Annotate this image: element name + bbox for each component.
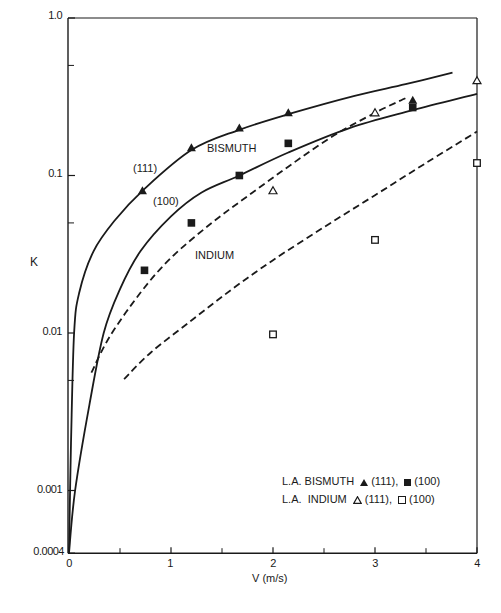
legend: L.A. BISMUTH (111), (100) L.A. INDIUM (1… bbox=[282, 472, 440, 508]
x-axis-title: V (m/s) bbox=[252, 572, 287, 584]
label-111: (111) bbox=[133, 162, 157, 174]
filled-triangle-icon bbox=[360, 479, 368, 486]
legend-prefix: L.A. BISMUTH bbox=[282, 475, 354, 487]
legend-label: (100) bbox=[409, 493, 435, 505]
bismuth-label: BISMUTH bbox=[207, 142, 257, 154]
filled-square-marker bbox=[188, 219, 196, 227]
x-tick-label: 4 bbox=[467, 557, 487, 569]
filled-square-marker bbox=[285, 140, 293, 148]
y-tick-label: 0.01 bbox=[6, 325, 62, 337]
legend-row-indium: L.A. INDIUM (111), (100) bbox=[282, 490, 440, 508]
filled-triangle-marker bbox=[408, 96, 417, 104]
legend-prefix: L.A. INDIUM bbox=[282, 493, 347, 505]
x-tick-label: 3 bbox=[365, 557, 385, 569]
label-100: (100) bbox=[153, 195, 179, 207]
filled-triangle-marker bbox=[284, 108, 293, 116]
open-triangle-icon bbox=[353, 496, 362, 504]
open-square-marker bbox=[372, 237, 379, 244]
x-tick-label: 0 bbox=[59, 557, 79, 569]
legend-row-bismuth: L.A. BISMUTH (111), (100) bbox=[282, 472, 440, 490]
y-axis-title: K bbox=[30, 255, 38, 269]
open-square-marker bbox=[474, 160, 481, 167]
open-triangle-marker bbox=[269, 187, 277, 194]
filled-square-marker bbox=[409, 104, 417, 112]
legend-label: (111), bbox=[365, 493, 392, 505]
filled-triangle-marker bbox=[235, 124, 244, 132]
open-square-icon bbox=[398, 496, 406, 504]
y-tick-label: 0.1 bbox=[6, 167, 62, 179]
filled-square-marker bbox=[236, 172, 244, 180]
y-tick-label: 1.0 bbox=[6, 9, 62, 21]
open-square-marker bbox=[270, 331, 277, 338]
filled-square-icon bbox=[404, 479, 411, 486]
y-tick-label: 0.001 bbox=[6, 483, 62, 495]
filled-square-marker bbox=[141, 267, 149, 275]
legend-label: (100) bbox=[414, 475, 440, 487]
x-tick-label: 2 bbox=[263, 557, 283, 569]
y-tick-label: 0.0004 bbox=[8, 545, 64, 557]
plot-area bbox=[0, 0, 501, 613]
x-tick-label: 1 bbox=[160, 557, 180, 569]
legend-label: (111), bbox=[371, 475, 398, 487]
indium-100-fit-curve bbox=[124, 132, 477, 380]
open-triangle-marker bbox=[371, 109, 379, 116]
indium-label: INDIUM bbox=[195, 249, 234, 261]
open-triangle-marker bbox=[473, 77, 481, 84]
indium-111-fit-curve bbox=[91, 98, 405, 373]
